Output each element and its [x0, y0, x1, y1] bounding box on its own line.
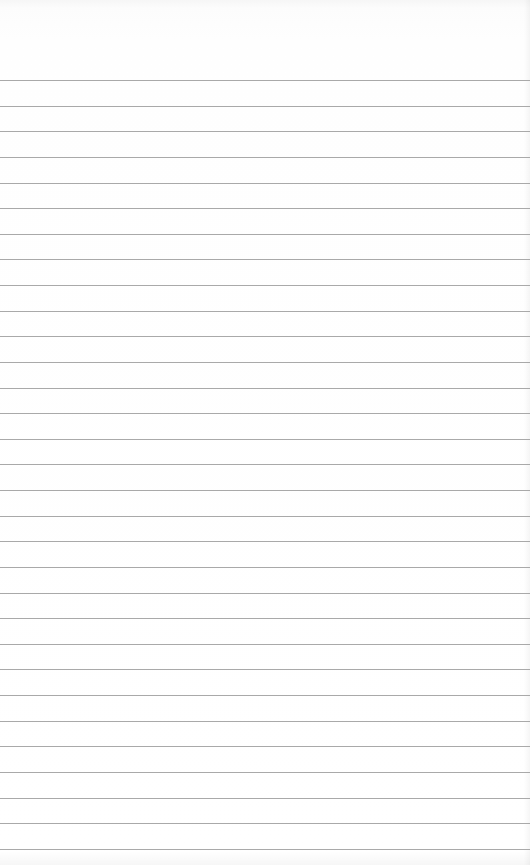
ruled-line	[0, 721, 530, 722]
ruled-line	[0, 618, 530, 619]
ruled-line	[0, 388, 530, 389]
ruled-line	[0, 80, 530, 81]
ruled-line	[0, 567, 530, 568]
ruled-line	[0, 669, 530, 670]
ruled-line	[0, 823, 530, 824]
ruled-line	[0, 131, 530, 132]
ruled-line	[0, 106, 530, 107]
ruled-line	[0, 259, 530, 260]
ruled-line	[0, 464, 530, 465]
ruled-line	[0, 183, 530, 184]
ruled-line	[0, 541, 530, 542]
ruled-line	[0, 208, 530, 209]
ruled-line	[0, 772, 530, 773]
ruled-line	[0, 746, 530, 747]
ruled-line	[0, 311, 530, 312]
ruled-line	[0, 490, 530, 491]
ruled-line	[0, 644, 530, 645]
ruled-line	[0, 593, 530, 594]
ruled-paper	[0, 0, 530, 865]
ruled-line	[0, 849, 530, 850]
paper-edge-shadow	[524, 0, 530, 865]
ruled-line	[0, 362, 530, 363]
ruled-line	[0, 285, 530, 286]
paper-bottom-shadow	[0, 851, 530, 865]
ruled-line	[0, 336, 530, 337]
ruled-line	[0, 439, 530, 440]
ruled-line	[0, 798, 530, 799]
ruled-line	[0, 413, 530, 414]
ruled-line	[0, 516, 530, 517]
ruled-line	[0, 157, 530, 158]
ruled-line	[0, 695, 530, 696]
ruled-line	[0, 234, 530, 235]
